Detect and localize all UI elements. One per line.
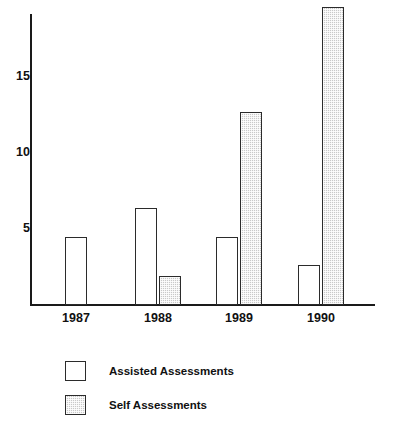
x-tick-label-1987: 1987 bbox=[46, 312, 106, 325]
bar-1990-assisted bbox=[298, 265, 320, 305]
x-tick-label-1988: 1988 bbox=[128, 312, 188, 325]
legend-label: Assisted Assessments bbox=[109, 365, 234, 377]
bar-1988-assisted bbox=[135, 208, 157, 305]
bar-1989-assisted bbox=[216, 237, 238, 305]
legend-item-self: Self Assessments bbox=[65, 392, 365, 418]
bar-1988-self bbox=[159, 276, 181, 305]
bar-1990-self bbox=[322, 7, 344, 305]
bars-layer bbox=[0, 0, 393, 305]
bar-1987-assisted bbox=[65, 237, 87, 305]
plot-area: 51015 1987198819891990 bbox=[0, 0, 393, 340]
legend-item-assisted: Assisted Assessments bbox=[65, 358, 365, 384]
chart-legend: Assisted AssessmentsSelf Assessments bbox=[65, 358, 365, 426]
bar-chart: 51015 1987198819891990 Assisted Assessme… bbox=[0, 0, 393, 431]
legend-label: Self Assessments bbox=[109, 399, 207, 411]
bar-1989-self bbox=[240, 112, 262, 305]
legend-swatch-self bbox=[65, 395, 86, 415]
legend-swatch-assisted bbox=[65, 361, 86, 381]
x-tick-label-1990: 1990 bbox=[291, 312, 351, 325]
x-tick-label-1989: 1989 bbox=[209, 312, 269, 325]
